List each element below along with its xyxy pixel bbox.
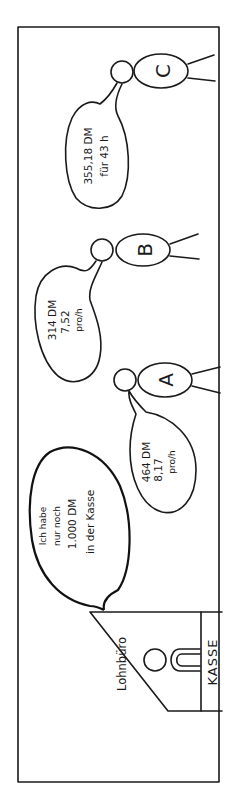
- office-roof-lines: [90, 612, 222, 711]
- worker-c-speech-line-1: 355,18 DM: [82, 127, 94, 184]
- cashier-head: [144, 649, 166, 671]
- worker-b-letter: B: [133, 243, 157, 257]
- worker-b-speech-line-3: pro/h: [74, 308, 84, 331]
- worker-b-speech-line-2: 7,52: [59, 310, 71, 333]
- speech-bubble-a-outline: [129, 391, 196, 513]
- worker-b-speech-line-1: 314 DM: [46, 300, 58, 341]
- cashier-speech-line-4: in der Kasse: [84, 490, 96, 554]
- cashier-speech-bubble: Ich habe nur noch 1.000 DM in der Kasse: [30, 447, 130, 610]
- payroll-office: KASSE Lohnbüro: [90, 612, 222, 711]
- speech-bubble-c-outline: [66, 83, 129, 208]
- office-label: Lohnbüro: [115, 637, 129, 691]
- worker-b-speech-bubble: 314 DM 7,52 pro/h: [35, 261, 102, 382]
- cashier-speech-line-2: nur noch: [52, 506, 62, 546]
- worker-a-legs: [192, 367, 220, 393]
- worker-a-speech-line-1: 464 DM: [140, 442, 152, 483]
- worker-a-head: [114, 369, 136, 391]
- worker-a-letter: A: [154, 373, 178, 387]
- cashier-speech-line-1: Ich habe: [38, 506, 48, 545]
- worker-a-speech-bubble: 464 DM 8,17 pro/h: [129, 391, 196, 513]
- cashier-body-inner: [177, 654, 200, 666]
- worker-c: C: [111, 54, 215, 88]
- worker-b-head: [91, 239, 113, 261]
- worker-c-letter: C: [151, 64, 175, 78]
- cashier-body-outer: [171, 649, 200, 671]
- worker-a-speech-line-3: pro/h: [167, 450, 177, 473]
- worker-b: B: [91, 234, 199, 266]
- worker-c-speech-bubble: 355,18 DM für 43 h: [66, 83, 129, 208]
- worker-c-legs: [188, 55, 215, 81]
- worker-b-legs: [170, 234, 199, 259]
- worker-c-speech-line-2: für 43 h: [98, 135, 110, 176]
- cashier-speech-line-3: 1.000 DM: [66, 499, 78, 550]
- worker-a-speech-line-2: 8,17: [152, 458, 164, 481]
- cash-desk-label: KASSE: [205, 639, 220, 686]
- worker-c-head: [111, 61, 133, 83]
- comic-panel: C 355,18 DM für 43 h B 314 DM 7,52 pro/h…: [0, 0, 245, 805]
